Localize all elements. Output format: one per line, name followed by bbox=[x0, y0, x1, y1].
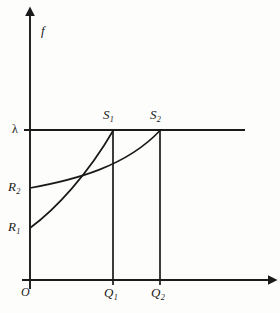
r1-label-subscript: 1 bbox=[16, 227, 20, 236]
r1-label-base: R bbox=[8, 219, 16, 234]
s2-label: S2 bbox=[150, 108, 161, 121]
diagram-canvas: f λ R2 R1 S1 S2 O Q1 Q2 bbox=[0, 0, 280, 313]
y-axis-arrowhead bbox=[25, 7, 35, 17]
lambda-label: λ bbox=[12, 123, 18, 135]
s2-label-subscript: 2 bbox=[157, 115, 161, 124]
q2-label-base: Q bbox=[151, 285, 160, 300]
q1-label-subscript: 1 bbox=[114, 293, 118, 302]
x-axis-arrowhead bbox=[268, 275, 278, 285]
r2-label: R2 bbox=[8, 180, 20, 193]
y-axis-label: f bbox=[41, 24, 45, 37]
diagram-svg bbox=[0, 0, 280, 313]
q1-label: Q1 bbox=[104, 286, 117, 299]
s2-label-base: S bbox=[150, 107, 157, 122]
origin-label: O bbox=[21, 286, 30, 298]
s1-label: S1 bbox=[103, 108, 114, 121]
s1-label-subscript: 1 bbox=[110, 115, 114, 124]
q1-label-base: Q bbox=[104, 285, 113, 300]
q2-label-subscript: 2 bbox=[161, 293, 165, 302]
r2-label-base: R bbox=[8, 179, 16, 194]
r2-label-subscript: 2 bbox=[16, 187, 20, 196]
s1-label-base: S bbox=[103, 107, 110, 122]
r1-label: R1 bbox=[8, 220, 20, 233]
q2-label: Q2 bbox=[151, 286, 164, 299]
